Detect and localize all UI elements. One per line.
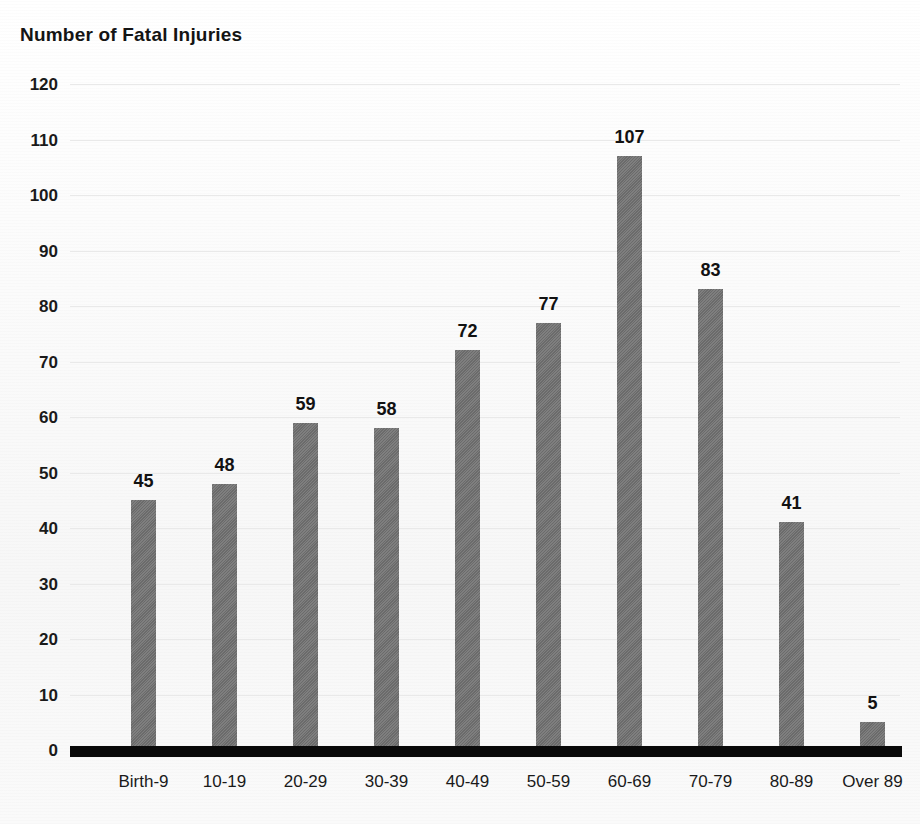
x-axis-tick-label: 70-79 [670, 772, 751, 792]
y-axis-tick-label: 100 [8, 187, 58, 204]
y-axis-tick-label: 40 [8, 520, 58, 537]
x-axis-tick-label: 60-69 [589, 772, 670, 792]
x-axis: Birth-910-1920-2930-3940-4950-5960-6970-… [70, 772, 900, 806]
bar[interactable] [374, 428, 399, 750]
bar-group[interactable]: 59 [265, 84, 345, 750]
bar-value-label: 72 [427, 322, 508, 340]
y-axis-tick-label: 70 [8, 353, 58, 370]
bar[interactable] [617, 156, 642, 750]
bar-value-label: 58 [346, 400, 427, 418]
chart-title: Number of Fatal Injuries [20, 24, 242, 46]
bar[interactable] [779, 522, 804, 750]
y-axis-tick-label: 110 [8, 131, 58, 148]
bar-value-label: 107 [589, 128, 670, 146]
bar-value-label: 83 [670, 261, 751, 279]
x-axis-tick-label: 80-89 [751, 772, 832, 792]
bar[interactable] [293, 423, 318, 750]
bar[interactable] [455, 350, 480, 750]
bar-value-label: 41 [751, 494, 832, 512]
bar-value-label: 59 [265, 395, 346, 413]
y-axis: 1201101009080706050403020100 [0, 84, 58, 750]
bar[interactable] [698, 289, 723, 750]
x-axis-line [70, 746, 902, 757]
bar-value-label: 5 [832, 694, 913, 712]
x-axis-tick-label: Birth-9 [103, 772, 184, 792]
bar[interactable] [212, 484, 237, 750]
x-axis-tick-label: 40-49 [427, 772, 508, 792]
bar[interactable] [536, 323, 561, 750]
x-axis-tick-label: Over 89 [832, 772, 913, 792]
y-axis-tick-label: 80 [8, 298, 58, 315]
bar[interactable] [131, 500, 156, 750]
bar-group[interactable]: 48 [184, 84, 264, 750]
x-axis-tick-label: 10-19 [184, 772, 265, 792]
bar-group[interactable]: 72 [427, 84, 507, 750]
x-axis-tick-label: 20-29 [265, 772, 346, 792]
bar-value-label: 45 [103, 472, 184, 490]
bar-group[interactable]: 83 [670, 84, 750, 750]
bar-group[interactable]: 5 [832, 84, 912, 750]
x-axis-tick-label: 50-59 [508, 772, 589, 792]
bar-group[interactable]: 41 [751, 84, 831, 750]
plot-area: 45485958727710783415 [70, 84, 900, 750]
y-axis-tick-label: 20 [8, 631, 58, 648]
y-axis-tick-label: 50 [8, 464, 58, 481]
bar-group[interactable]: 107 [589, 84, 669, 750]
y-axis-tick-label: 90 [8, 242, 58, 259]
y-axis-tick-label: 10 [8, 686, 58, 703]
y-axis-tick-label: 30 [8, 575, 58, 592]
y-axis-tick-label: 0 [8, 742, 58, 759]
x-axis-tick-label: 30-39 [346, 772, 427, 792]
y-axis-tick-label: 120 [8, 76, 58, 93]
bar-group[interactable]: 77 [508, 84, 588, 750]
bar-group[interactable]: 58 [346, 84, 426, 750]
bar-chart-figure: Number of Fatal Injuries 120110100908070… [0, 0, 920, 824]
bar-value-label: 77 [508, 295, 589, 313]
bar-group[interactable]: 45 [103, 84, 183, 750]
bar-value-label: 48 [184, 456, 265, 474]
y-axis-tick-label: 60 [8, 409, 58, 426]
